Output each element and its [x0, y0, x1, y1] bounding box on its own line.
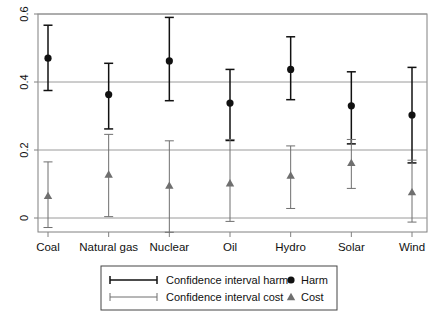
y-axis-tick-label: 0.6 — [18, 6, 30, 21]
marker-harm-circle — [105, 91, 112, 98]
legend-ci-label: Confidence interval harm — [166, 274, 288, 286]
marker-harm-circle — [44, 55, 51, 62]
marker-harm-circle — [348, 102, 355, 109]
x-axis-category-label: Hydro — [275, 241, 306, 253]
legend-box — [101, 266, 337, 310]
x-axis-category-label: Oil — [223, 241, 237, 253]
x-axis-category-label: Solar — [338, 241, 365, 253]
x-axis-category-label: Nuclear — [150, 241, 190, 253]
legend-marker-label: Cost — [301, 291, 324, 303]
legend-ci-label: Confidence interval cost — [166, 291, 283, 303]
marker-harm-circle — [226, 99, 233, 106]
y-axis-tick-label: 0.2 — [18, 142, 30, 157]
error-bar-chart: 00.20.40.6CoalNatural gasNuclearOilHydro… — [0, 0, 437, 319]
legend-marker-label: Harm — [301, 274, 328, 286]
plot-frame — [38, 14, 427, 232]
x-axis-category-label: Coal — [36, 241, 60, 253]
x-axis-category-label: Natural gas — [79, 241, 138, 253]
x-axis-category-label: Wind — [399, 241, 425, 253]
marker-harm-circle — [166, 57, 173, 64]
marker-harm-circle — [287, 66, 294, 73]
marker-harm-circle — [408, 111, 415, 118]
chart-canvas: 00.20.40.6CoalNatural gasNuclearOilHydro… — [0, 0, 437, 319]
y-axis-tick-label: 0.4 — [18, 74, 30, 89]
y-axis-tick-label: 0 — [18, 215, 30, 221]
legend-marker-harm-circle — [287, 276, 294, 283]
